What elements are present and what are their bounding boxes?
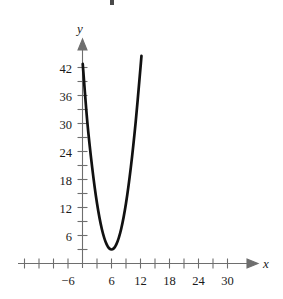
- x-tick-label-12: 12: [134, 274, 147, 288]
- parabola-chart: −6 6 12 18 24 30 6 12 18 24 30 36 42 x y: [0, 0, 283, 299]
- x-tick-label-24: 24: [192, 274, 205, 288]
- y-tick-label-6: 6: [66, 230, 72, 244]
- y-tick-label-30: 30: [60, 118, 73, 132]
- y-tick-label-24: 24: [60, 146, 73, 160]
- x-tick-label--6: −6: [61, 274, 74, 288]
- x-tick-label-6: 6: [108, 274, 114, 288]
- y-tick-label-12: 12: [60, 202, 73, 216]
- x-axis-tick-labels: −6 6 12 18 24 30: [61, 274, 233, 288]
- y-axis-arrowhead: [78, 39, 87, 50]
- y-tick-label-36: 36: [60, 90, 73, 104]
- y-tick-label-18: 18: [60, 174, 73, 188]
- y-axis-tick-labels: 6 12 18 24 30 36 42: [60, 62, 73, 244]
- y-axis-label: y: [75, 21, 83, 36]
- x-tick-label-30: 30: [221, 274, 234, 288]
- x-axis-arrowhead: [247, 259, 258, 268]
- x-axis-label: x: [262, 256, 269, 271]
- y-tick-label-42: 42: [60, 62, 73, 76]
- x-tick-label-18: 18: [163, 274, 176, 288]
- parabola-curve: [83, 56, 142, 250]
